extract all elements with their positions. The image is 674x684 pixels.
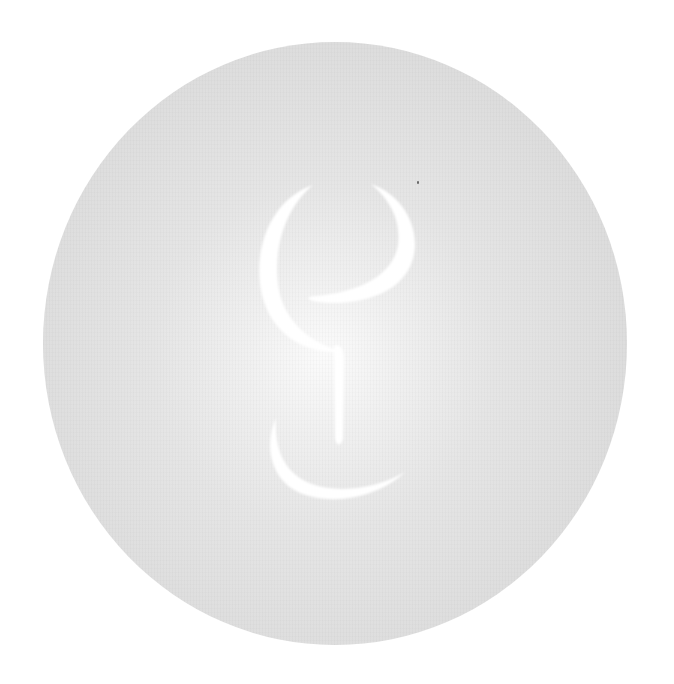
image-canvas [0,0,674,684]
dust-speck [417,181,419,184]
crescent-emblem-icon [0,0,674,684]
left-crescent-shape [259,185,345,352]
stem-shape [334,345,344,444]
upper-right-crescent-shape [308,184,415,303]
